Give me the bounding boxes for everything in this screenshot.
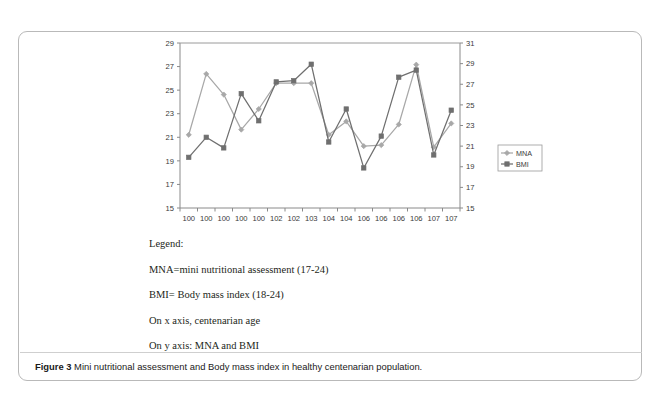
right-axis-tick-label: 25 xyxy=(466,101,474,110)
figure-panel: 1517192123252729151719212325272931100100… xyxy=(18,31,642,381)
data-point-bmi xyxy=(274,80,278,84)
legend-line-mna: MNA=mini nutritional assessment (17-24) xyxy=(149,265,569,276)
data-point-bmi xyxy=(379,134,383,138)
left-axis-tick-label: 25 xyxy=(166,86,174,95)
data-point-bmi xyxy=(432,153,436,157)
data-point-bmi xyxy=(204,135,208,139)
x-axis-tick-label: 100 xyxy=(235,214,248,223)
x-axis-tick-label: 102 xyxy=(270,214,283,223)
data-point-mna xyxy=(309,81,314,86)
x-axis-tick-label: 106 xyxy=(392,214,405,223)
x-axis-tick-label: 102 xyxy=(287,214,300,223)
right-axis-tick-label: 17 xyxy=(466,183,474,192)
data-point-mna xyxy=(414,62,419,67)
chart-legend-label-mna: MNA xyxy=(516,149,532,158)
figure-legend-block: Legend: MNA=mini nutritional assessment … xyxy=(149,239,569,367)
right-axis-tick-label: 27 xyxy=(466,80,474,89)
x-axis-tick-label: 100 xyxy=(200,214,213,223)
chart-svg: 1517192123252729151719212325272931100100… xyxy=(19,32,643,232)
series-bmi xyxy=(187,62,454,170)
left-axis-tick-label: 15 xyxy=(166,204,174,213)
data-point-bmi xyxy=(239,91,243,95)
right-axis-tick-label: 29 xyxy=(466,59,474,68)
x-axis-tick-label: 104 xyxy=(340,214,353,223)
data-point-bmi xyxy=(397,75,401,79)
x-axis-tick-label: 103 xyxy=(305,214,318,223)
right-axis-tick-label: 23 xyxy=(466,121,474,130)
right-axis-tick-label: 31 xyxy=(466,39,474,48)
figure-caption-label: Figure 3 xyxy=(35,361,71,372)
figure-caption: Figure 3 Mini nutritional assessment and… xyxy=(35,361,631,373)
legend-line-xaxis: On x axis, centenarian age xyxy=(149,316,569,327)
x-axis-tick-label: 100 xyxy=(252,214,265,223)
legend-line-bmi: BMI= Body mass index (18-24) xyxy=(149,290,569,301)
data-point-bmi xyxy=(362,166,366,170)
legend-line-yaxis: On y axis: MNA and BMI xyxy=(149,341,569,352)
data-point-bmi xyxy=(257,119,261,123)
left-axis-tick-label: 21 xyxy=(166,133,174,142)
data-point-mna xyxy=(186,132,191,137)
caption-divider xyxy=(20,352,642,353)
figure-caption-text: Mini nutritional assessment and Body mas… xyxy=(74,361,422,372)
x-axis-tick-label: 100 xyxy=(217,214,230,223)
x-axis-tick-label: 107 xyxy=(445,214,458,223)
x-axis-tick-label: 104 xyxy=(322,214,335,223)
chart-legend-label-bmi: BMI xyxy=(516,160,529,169)
left-axis-tick-label: 17 xyxy=(166,180,174,189)
data-point-bmi xyxy=(309,62,313,66)
data-point-bmi xyxy=(222,146,226,150)
chart-area: 1517192123252729151719212325272931100100… xyxy=(19,32,643,232)
right-axis-tick-label: 21 xyxy=(466,142,474,151)
data-point-bmi xyxy=(449,108,453,112)
x-axis-tick-label: 106 xyxy=(375,214,388,223)
data-point-bmi xyxy=(414,68,418,72)
right-axis-tick-label: 15 xyxy=(466,204,474,213)
legend-heading: Legend: xyxy=(149,239,569,250)
x-axis-tick-label: 100 xyxy=(182,214,195,223)
x-axis-tick-label: 106 xyxy=(357,214,370,223)
data-point-bmi xyxy=(187,155,191,159)
left-axis-tick-label: 27 xyxy=(166,62,174,71)
chart-legend-key: MNABMI xyxy=(498,145,542,171)
right-axis-tick-label: 19 xyxy=(466,162,474,171)
left-axis-tick-label: 29 xyxy=(166,39,174,48)
chart-legend-marker-bmi xyxy=(505,162,509,166)
left-axis-tick-label: 23 xyxy=(166,109,174,118)
left-axis-tick-label: 19 xyxy=(166,157,174,166)
x-axis-tick-label: 106 xyxy=(410,214,423,223)
data-point-bmi xyxy=(327,140,331,144)
data-point-bmi xyxy=(292,79,296,83)
x-axis-tick-label: 107 xyxy=(427,214,440,223)
data-point-bmi xyxy=(344,107,348,111)
